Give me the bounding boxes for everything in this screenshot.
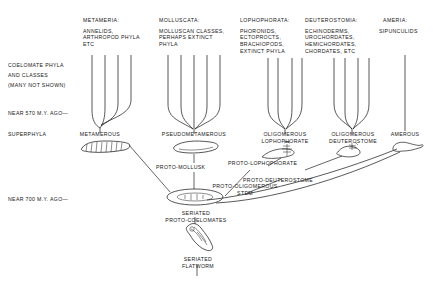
link-deuterostome-label <box>305 156 342 170</box>
superphylum-label-pseudometamerous: PSEUDOMETAMEROUS <box>158 131 230 138</box>
branch-group-deuterostomia <box>334 58 369 134</box>
organism-pseudometamerous-mollusk <box>174 141 218 153</box>
phylogeny-diagram: COELOMATE PHYLA AND CLASSES (MANY NOT SH… <box>0 0 433 284</box>
time-marker-lower: NEAR 700 M.Y. AGO— <box>8 196 68 203</box>
heading-ameria: AMERIA: <box>383 17 407 24</box>
member-molluscata-1: PERHAPS EXTINCT <box>159 34 213 41</box>
member-lophophorata-2: BRACHIOPODS, <box>240 41 284 48</box>
branch-group-lophophorata <box>268 58 302 134</box>
organism-flatworm-body <box>186 224 212 251</box>
member-lophophorata-3: EXTINCT PHYLA <box>240 48 285 55</box>
superphylum-label-amerous: AMEROUS <box>380 131 430 138</box>
label-proto-oligomerous-stem-2: STEM <box>206 190 284 197</box>
left-caption-line-3: (MANY NOT SHOWN) <box>8 82 66 89</box>
member-deuterostomia-2: HEMICHORDATES, <box>305 41 357 48</box>
row-label-superphyla: SUPERPHYLA <box>8 131 46 138</box>
member-metameria-1: ARTHROPOD PHYLA <box>83 34 140 41</box>
label-proto-oligomerous-stem-1: PROTO-OLIGOMEROUS <box>206 183 284 190</box>
member-molluscata-2: PHYLA <box>159 41 178 48</box>
member-ameria-0: SIPUNCULIDS <box>379 28 418 35</box>
label-seriated-proto-coelomates-2: PROTO-COELOMATES <box>150 217 242 224</box>
heading-metameria: METAMERIA: <box>83 17 119 24</box>
heading-deuterostomia: DEUTEROSTOMIA: <box>305 17 358 24</box>
member-deuterostomia-3: CHORDATES, ETC <box>305 48 355 55</box>
superphylum-label-oligomerous-deuterostome-1: OLIGOMEROUS <box>320 131 386 138</box>
time-marker-upper: NEAR 570 M.Y. AGO— <box>8 110 68 117</box>
label-proto-lophophorate: PROTO-LOPHOPHORATE <box>228 160 297 167</box>
superphylum-label-oligomerous-deuterostome-2: DEUTEROSTOME <box>320 138 386 145</box>
superphylum-label-metamerous: METAMEROUS <box>70 131 130 138</box>
member-metameria-2: ETC <box>83 41 94 48</box>
member-deuterostomia-1: UROCHORDATES, <box>305 34 355 41</box>
member-lophophorata-1: ECTOPROCTS, <box>240 34 281 41</box>
left-caption-line-1: COELOMATE PHYLA <box>8 62 64 69</box>
superphylum-label-oligomerous-lophophorate-1: OLIGOMEROUS <box>252 131 318 138</box>
organism-metamerous-worm <box>81 141 129 152</box>
left-caption-line-2: AND CLASSES <box>8 72 48 79</box>
label-seriated-flatworm-2: FLATWORM <box>158 263 238 270</box>
label-seriated-proto-coelomates-1: SERIATED <box>150 210 242 217</box>
superphylum-label-oligomerous-lophophorate-2: LOPHOPHORATE <box>252 138 318 145</box>
organism-amerous-sipunculid <box>393 142 423 151</box>
label-proto-mollusk: PROTO-MOLLUSK <box>156 164 205 171</box>
heading-lophophorata: LOPHOPHORATA: <box>240 17 290 24</box>
label-seriated-flatworm-1: SERIATED <box>158 256 238 263</box>
heading-molluscata: MOLLUSCATA: <box>159 17 200 24</box>
branch-group-molluscata <box>168 55 220 134</box>
branch-group-metameria <box>92 55 131 133</box>
